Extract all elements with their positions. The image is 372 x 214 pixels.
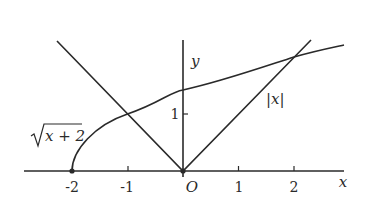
sqrt-curve-label: x + 2	[31, 124, 85, 146]
sqrt-radicand: x + 2	[45, 127, 85, 145]
x-tick-label-2: 2	[290, 179, 299, 195]
y-axis-label: y	[190, 52, 200, 70]
point-origin	[180, 168, 185, 173]
y-tick-label-1: 1	[171, 106, 180, 122]
x-tick-label-minus2: -2	[65, 179, 79, 195]
x-tick-label-1: 1	[235, 179, 244, 195]
function-graph: -2 -1 1 2 1 O x y x + 2 |x|	[0, 0, 372, 214]
x-axis-label: x	[339, 173, 348, 191]
abs-curve-label: |x|	[266, 90, 285, 108]
sqrt-curve	[72, 45, 344, 171]
origin-label: O	[186, 178, 198, 196]
x-tick-label-minus1: -1	[120, 179, 134, 195]
point-minus2	[69, 168, 74, 173]
